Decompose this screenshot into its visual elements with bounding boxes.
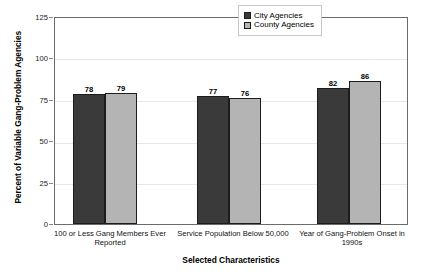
legend: City Agencies County Agencies [238,5,322,36]
gridline-100 [55,59,407,60]
bar-city-agencies-3 [317,88,349,224]
y-tick-label-50: 50 [26,138,48,146]
bar-city-agencies-1 [73,94,105,224]
y-tick-label-75: 75 [26,97,48,105]
bar-value-label-3: 77 [197,88,229,96]
y-tick-mark-50 [49,141,53,142]
y-tick-mark-25 [49,183,53,184]
legend-item-city-agencies: City Agencies [244,12,314,20]
y-tick-label-100: 100 [26,55,48,63]
bar-value-label-2: 79 [105,85,137,93]
legend-swatch-icon-city-agencies [244,12,251,19]
plot-area: 78 79 77 76 82 86 [54,17,408,225]
y-tick-label-25: 25 [26,180,48,188]
bar-county-agencies-1 [105,93,137,224]
y-tick-label-125: 125 [26,14,48,22]
x-axis-title: Selected Characteristics [54,256,408,264]
bar-chart-figure: Percent of Variable Gang-Problem Agencie… [0,0,429,275]
bar-city-agencies-2 [197,96,229,224]
x-category-label-1: 100 or Less Gang Members Ever Reported [45,229,175,248]
bar-county-agencies-2 [229,98,261,224]
bar-value-label-1: 78 [73,86,105,94]
bar-value-label-6: 86 [349,73,381,81]
legend-label-county-agencies: County Agencies [254,21,314,29]
x-category-label-3: Year of Gang-Problem Onset in 1990s [288,229,416,248]
y-tick-mark-75 [49,100,53,101]
y-axis-title: Percent of Variable Gang-Problem Agencie… [14,13,22,221]
bar-county-agencies-3 [349,81,381,224]
legend-item-county-agencies: County Agencies [244,21,314,29]
y-tick-label-0: 0 [26,221,48,229]
y-tick-mark-0 [49,224,53,225]
legend-label-city-agencies: City Agencies [254,12,302,20]
y-tick-mark-100 [49,58,53,59]
y-tick-mark-125 [49,17,53,18]
x-category-label-2: Service Population Below 50,000 [168,229,298,238]
legend-swatch-icon-county-agencies [244,22,251,29]
bar-value-label-4: 76 [229,90,261,98]
bar-value-label-5: 82 [317,80,349,88]
